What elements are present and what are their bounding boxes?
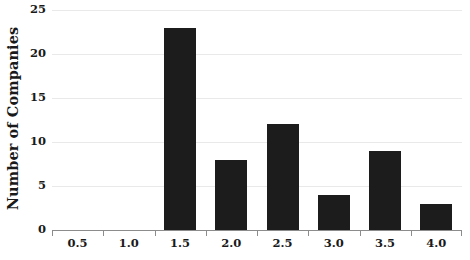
x-tick-label: 2.0 <box>221 238 241 250</box>
x-tick-label: 3.0 <box>324 238 344 250</box>
x-tick-label: 0.5 <box>68 238 88 250</box>
x-tick-label: 1.5 <box>170 238 190 250</box>
x-tick-mark <box>103 231 104 236</box>
y-tick-label: 15 <box>2 92 46 104</box>
x-tick-mark <box>52 231 53 236</box>
x-tick-label: 1.0 <box>119 238 139 250</box>
bar <box>369 151 401 230</box>
y-tick-label: 5 <box>2 180 46 192</box>
x-axis-ticks <box>52 231 462 237</box>
bar <box>215 160 247 230</box>
y-tick-label: 0 <box>2 224 46 236</box>
x-tick-mark <box>257 231 258 236</box>
x-tick-mark <box>411 231 412 236</box>
bars-group <box>52 10 462 230</box>
x-tick-mark <box>360 231 361 236</box>
y-axis-tick-labels: 0510152025 <box>0 0 46 260</box>
x-tick-label: 4.0 <box>426 238 446 250</box>
x-tick-mark <box>461 231 462 236</box>
y-tick-label: 25 <box>2 4 46 16</box>
x-tick-mark <box>206 231 207 236</box>
bar <box>164 28 196 230</box>
x-tick-label: 3.5 <box>375 238 395 250</box>
y-tick-label: 10 <box>2 136 46 148</box>
x-tick-label: 2.5 <box>273 238 293 250</box>
y-tick-label: 20 <box>2 48 46 60</box>
bar <box>267 124 299 230</box>
plot-area <box>52 10 462 230</box>
bar <box>318 195 350 230</box>
x-tick-mark <box>308 231 309 236</box>
bar <box>420 204 452 230</box>
x-tick-mark <box>155 231 156 236</box>
x-axis-tick-labels: 0.51.01.52.02.53.03.54.0 <box>52 238 462 256</box>
histogram-chart: Number of Companies 0510152025 0.51.01.5… <box>0 0 470 260</box>
